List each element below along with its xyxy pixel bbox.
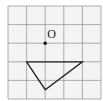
grid-diagram: O	[0, 0, 103, 101]
point-o	[43, 41, 47, 45]
point-label: O	[47, 27, 56, 41]
grid-background	[8, 6, 101, 99]
diagram-canvas: O	[0, 0, 103, 101]
